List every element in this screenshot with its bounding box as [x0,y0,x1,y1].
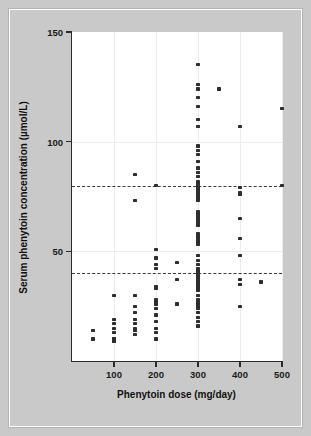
scatter-point [238,278,241,281]
scatter-point [280,107,283,110]
scatter-point [196,149,199,152]
scatter-point [154,307,157,310]
scatter-point [196,118,199,121]
y-gridline [72,251,282,252]
y-axis-tick-label: 150 [47,27,63,38]
x-axis-tick-label: 200 [148,369,164,380]
scatter-point [154,302,157,305]
scatter-point [238,193,241,196]
scatter-point [238,237,241,240]
x-axis-tick-label: 400 [232,369,248,380]
therapeutic-range-reference-line [72,186,282,187]
scatter-point [196,160,199,163]
y-axis-tick-label: 50 [52,246,63,257]
scatter-point [154,287,157,290]
scatter-point [175,302,178,305]
scatter-point [196,199,199,202]
x-axis-tick-label: 500 [274,369,290,380]
scatter-point [196,166,199,169]
scatter-point [238,283,241,286]
scatter-point [133,329,136,332]
x-axis-tick [197,361,198,367]
scatter-point [196,63,199,66]
x-gridline [240,32,241,361]
y-gridline [72,142,282,143]
scatter-point [154,327,157,330]
y-axis-label-text: Serum phenytoin concentration (µmol/L) [18,101,29,293]
figure-container: 10020030040050050100150 Serum phenytoin … [0,0,311,436]
scatter-point [133,322,136,325]
scatter-point [196,144,199,147]
scatter-point [196,316,199,319]
scatter-point [196,294,199,297]
scatter-point [196,324,199,327]
scatter-point [133,311,136,314]
scatter-point [175,261,178,264]
scatter-point [133,199,136,202]
scatter-point [217,87,220,90]
scatter-point [196,153,199,156]
scatter-point [196,263,199,266]
x-axis-tick-label: 100 [106,369,122,380]
scatter-point [280,184,283,187]
y-axis-tick [66,31,72,32]
y-axis-tick-label: 100 [47,136,63,147]
scatter-point [154,337,157,340]
scatter-point [133,294,136,297]
scatter-point [196,96,199,99]
x-axis-tick-label: 300 [190,369,206,380]
scatter-point [154,184,157,187]
scatter-point [112,318,115,321]
scatter-point [196,171,199,174]
therapeutic-range-reference-line [72,273,282,274]
scatter-point [238,217,241,220]
scatter-point [196,311,199,314]
scatter-point [154,267,157,270]
scatter-point [196,307,199,310]
scatter-point [133,333,136,336]
scatter-point [154,248,157,251]
scatter-point [133,318,136,321]
scatter-point [238,125,241,128]
scatter-point [196,125,199,128]
scatter-point [196,175,199,178]
scatter-point [175,278,178,281]
x-axis-tick [113,361,114,367]
scatter-point [91,329,94,332]
scatter-point [196,83,199,86]
scatter-point [112,294,115,297]
x-axis-tick [155,361,156,367]
scatter-point [238,254,241,257]
x-axis-label: Phenytoin dose (mg/day) [71,389,282,400]
scatter-point [196,223,199,226]
scatter-point [154,320,157,323]
y-axis-tick [66,251,72,252]
scatter-point [238,186,241,189]
x-gridline [156,32,157,361]
scatter-point [154,256,157,259]
scatter-point [112,327,115,330]
x-axis-tick [281,361,282,367]
scatter-point [196,87,199,90]
x-gridline [114,32,115,361]
scatter-point [259,280,262,283]
scatter-point [238,305,241,308]
scatter-point [112,340,115,343]
scatter-point [133,305,136,308]
y-axis-label: Serum phenytoin concentration (µmol/L) [16,32,30,362]
x-axis-tick [239,361,240,367]
y-axis-tick [66,141,72,142]
scatter-point [154,331,157,334]
plot-area: 10020030040050050100150 [71,32,282,362]
x-gridline [282,32,283,361]
scatter-point [196,289,199,292]
scatter-point [154,313,157,316]
scatter-point [196,105,199,108]
scatter-point [196,254,199,257]
scatter-point [196,243,199,246]
scatter-point [91,337,94,340]
scatter-point [112,331,115,334]
scatter-point [112,322,115,325]
scatter-point [196,320,199,323]
scatter-point [154,263,157,266]
